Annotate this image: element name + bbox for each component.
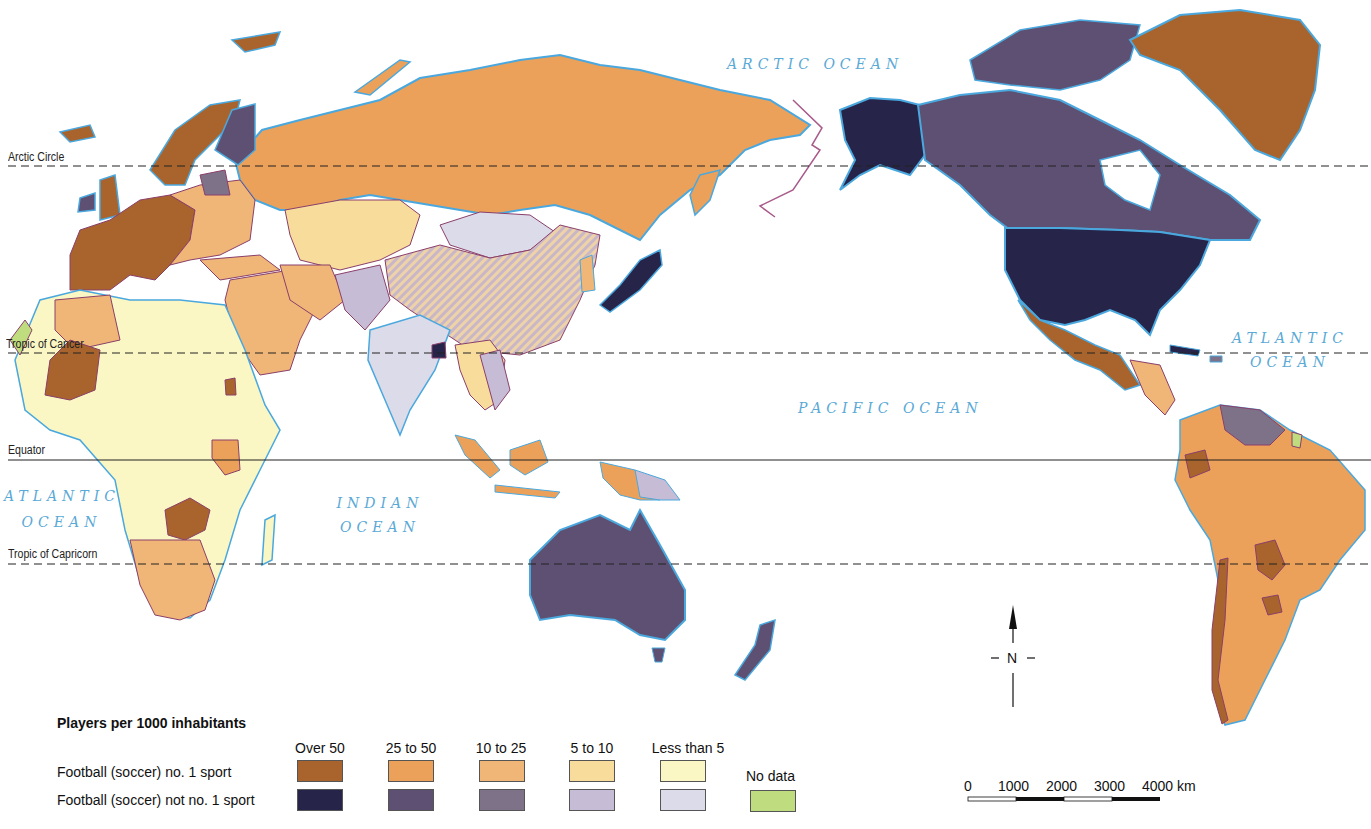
region-bangladesh [432, 342, 446, 358]
ocean-label-line: INDIAN [325, 495, 435, 511]
legend-title: Players per 1000 inhabitants [57, 715, 246, 731]
region-cuba [1170, 345, 1200, 356]
legend-category-over-50: Over 50 [275, 740, 365, 756]
region-korea [580, 255, 595, 292]
legend-category-10-25: 10 to 25 [456, 740, 546, 756]
region-japan [600, 250, 662, 312]
ocean-label-line: OCEAN [325, 519, 435, 535]
swatch-not-no1-5-10 [569, 789, 615, 811]
legend-row-label-no1: Football (soccer) no. 1 sport [57, 764, 231, 780]
swatch-no1-over-50 [297, 760, 343, 782]
region-india [368, 315, 450, 435]
scale-bar: 0 1000 2000 3000 4000 km [960, 778, 1220, 808]
equator-label: Equator [8, 443, 45, 457]
region-borneo [510, 440, 548, 475]
legend-category-5-10: 5 to 10 [547, 740, 637, 756]
region-canadian-arctic [970, 20, 1140, 90]
region-canada [918, 90, 1260, 240]
atlantic-ocean-east-label: ATLANTIC OCEAN [1230, 330, 1350, 370]
ocean-label-line: ATLANTIC [4, 488, 119, 504]
tropic-of-capricorn-label: Tropic of Capricorn [8, 547, 97, 561]
region-alaska [840, 98, 925, 190]
ocean-label-line: OCEAN [4, 514, 119, 530]
region-central-america [1130, 360, 1175, 415]
scale-bar-graphic [960, 778, 1220, 808]
swatch-no-data [750, 790, 796, 812]
region-greenland [1130, 10, 1320, 160]
region-madagascar [262, 515, 275, 565]
swatch-no1-5-10 [569, 760, 615, 782]
ocean-label-line: ATLANTIC [1230, 330, 1350, 346]
arctic-circle-label: Arctic Circle [8, 150, 64, 164]
north-arrow: N [985, 605, 1041, 710]
region-sumatra [455, 435, 500, 478]
legend-category-less-5: Less than 5 [638, 740, 738, 756]
region-eritrea [225, 378, 236, 395]
region-baltics [200, 170, 230, 195]
legend-row-label-not-no1: Football (soccer) not no. 1 sport [57, 792, 255, 808]
north-label: N [1007, 650, 1017, 666]
legend-category-25-50: 25 to 50 [366, 740, 456, 756]
ocean-label-line: OCEAN [1230, 354, 1350, 370]
pacific-ocean-label: PACIFIC OCEAN [798, 400, 983, 416]
legend: Players per 1000 inhabitants Over 50 25 … [0, 705, 820, 829]
region-southern-africa [130, 540, 215, 620]
region-french-guiana [1292, 432, 1302, 448]
region-png [635, 470, 680, 500]
region-hispaniola [1210, 356, 1222, 362]
swatch-not-no1-10-25 [479, 789, 525, 811]
region-new-zealand [735, 620, 775, 680]
swatch-no1-10-25 [479, 760, 525, 782]
swatch-not-no1-less-5 [660, 789, 706, 811]
tropic-of-cancer-label: Tropic of Cancer [6, 337, 84, 351]
swatch-not-no1-25-50 [388, 789, 434, 811]
legend-no-data-label: No data [746, 768, 795, 784]
region-svalbard [232, 32, 280, 52]
atlantic-ocean-west-label: ATLANTIC OCEAN [4, 488, 119, 530]
region-java [495, 485, 560, 498]
indian-ocean-label: INDIAN OCEAN [325, 495, 435, 535]
region-ireland [78, 193, 95, 212]
swatch-no1-25-50 [388, 760, 434, 782]
region-australia [530, 510, 685, 640]
region-pakistan [335, 265, 390, 330]
region-uk [100, 175, 120, 220]
region-tasmania [652, 648, 665, 662]
arctic-ocean-label: ARCTIC OCEAN [727, 56, 903, 72]
region-iceland [60, 125, 95, 142]
swatch-not-no1-over-50 [297, 789, 343, 811]
swatch-no1-less-5 [660, 760, 706, 782]
